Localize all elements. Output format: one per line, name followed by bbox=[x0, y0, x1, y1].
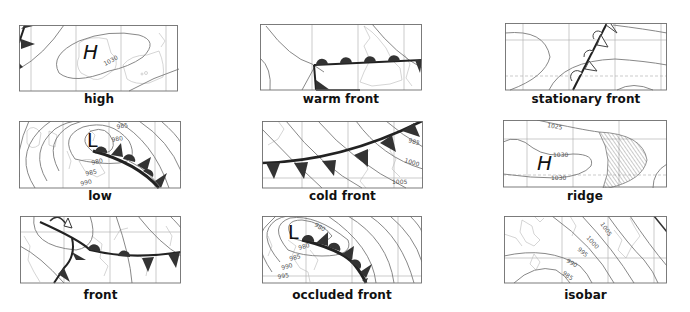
svg-text:980: 980 bbox=[91, 156, 104, 166]
caption-stationary-front: stationary front bbox=[505, 92, 667, 106]
occluded-isobar-labels: 980 980 985 990 995 bbox=[277, 221, 327, 280]
warm-front-map bbox=[260, 24, 422, 91]
caption-front: front bbox=[20, 288, 181, 302]
ridge-map: H 1025 1030 1030 bbox=[503, 120, 667, 188]
panel-cold-front: 985 1000 1005 cold front bbox=[262, 121, 423, 205]
panel-ridge: H 1025 1030 1030 ridge bbox=[503, 120, 667, 205]
high-center-label: H bbox=[83, 40, 98, 64]
svg-text:1000: 1000 bbox=[404, 156, 421, 167]
svg-text:985: 985 bbox=[116, 121, 129, 130]
caption-warm-front: warm front bbox=[260, 92, 422, 106]
svg-text:985: 985 bbox=[85, 167, 98, 177]
caption-occluded-front: occluded front bbox=[262, 288, 422, 302]
svg-text:1000: 1000 bbox=[585, 234, 601, 250]
svg-text:980: 980 bbox=[111, 134, 124, 143]
panel-high: H 1030 high bbox=[19, 25, 179, 107]
panel-occluded-front: L 980 980 985 990 995 occluded front bbox=[262, 216, 422, 304]
caption-isobar: isobar bbox=[504, 288, 667, 302]
svg-text:985: 985 bbox=[408, 136, 421, 146]
svg-text:980: 980 bbox=[297, 241, 310, 251]
high-pressure-map: H 1030 bbox=[19, 25, 179, 92]
svg-text:995: 995 bbox=[277, 271, 290, 280]
front-map bbox=[20, 216, 181, 284]
panel-warm-front: warm front bbox=[260, 24, 422, 107]
cold-front-map: 985 1000 1005 bbox=[262, 121, 423, 189]
caption-cold-front: cold front bbox=[262, 189, 423, 203]
panel-isobar: 1005 1000 995 990 985 isobar bbox=[504, 216, 667, 304]
isobar-map: 1005 1000 995 990 985 bbox=[504, 216, 667, 284]
cold-front-isobar-labels: 985 1000 1005 bbox=[392, 136, 421, 185]
svg-text:1005: 1005 bbox=[599, 221, 614, 238]
panel-stationary-front: stationary front bbox=[505, 23, 667, 107]
svg-text:980: 980 bbox=[314, 221, 328, 233]
low-pressure-map: L 985 980 980 985 990 bbox=[19, 121, 181, 189]
stationary-front-map bbox=[505, 23, 667, 91]
occluded-front-map: L 980 980 985 990 995 bbox=[262, 216, 422, 284]
svg-text:1030: 1030 bbox=[102, 53, 119, 66]
svg-text:1030: 1030 bbox=[551, 174, 566, 181]
caption-low: low bbox=[19, 189, 181, 203]
svg-text:1025: 1025 bbox=[547, 121, 563, 131]
caption-high: high bbox=[19, 92, 179, 106]
occluded-low-center-label: L bbox=[288, 221, 299, 243]
svg-text:990: 990 bbox=[280, 261, 293, 271]
panel-low: L 985 980 980 985 990 low bbox=[19, 121, 181, 205]
panel-front: front bbox=[20, 216, 181, 304]
svg-text:1005: 1005 bbox=[392, 178, 407, 185]
svg-text:990: 990 bbox=[80, 177, 93, 187]
caption-ridge: ridge bbox=[503, 189, 667, 203]
svg-text:990: 990 bbox=[566, 257, 580, 269]
ridge-center-label: H bbox=[537, 151, 552, 175]
svg-text:1030: 1030 bbox=[553, 151, 568, 158]
low-center-label: L bbox=[87, 129, 98, 151]
